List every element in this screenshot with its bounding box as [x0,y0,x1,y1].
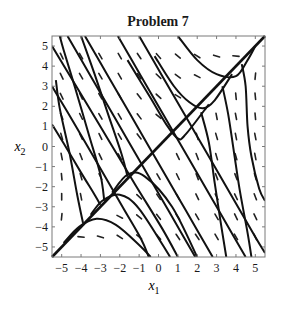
direction-arrow-icon [255,153,256,159]
phase-portrait-figure: Problem 7 −5−4−3−2−1012345 −5−4−3−2−1012… [0,0,284,312]
trajectory-curve [242,64,265,201]
direction-arrow-icon [61,153,62,159]
x-tick-label: −3 [94,261,107,275]
direction-arrow-icon [137,215,142,219]
direction-arrow-icon [195,234,199,239]
direction-arrow-icon [118,134,121,140]
direction-arrow-icon [255,93,256,99]
direction-arrow-icon [60,73,63,79]
direction-arrow-icon [79,73,82,79]
direction-arrow-icon [60,93,63,99]
direction-arrow-icon [214,55,220,57]
direction-arrow-icon [118,53,121,59]
direction-arrow-icon [215,174,217,180]
direction-arrow-icon [236,93,237,99]
x-tick-label: 2 [194,261,200,275]
direction-arrow-icon [117,215,123,218]
x-tick-label: 1 [175,261,181,275]
x-axis-label: x1 [147,278,159,296]
direction-arrow-icon [215,234,218,240]
y-tick-label: 3 [42,79,48,93]
y-tick-label: −4 [35,220,48,234]
y-tick-label: −5 [35,240,48,254]
direction-arrow-icon [137,114,141,119]
direction-arrow-icon [176,174,179,180]
y-tick-label: −1 [35,160,48,174]
direction-arrow-icon [254,194,256,200]
direction-arrow-icon [235,194,238,200]
direction-arrow-icon [60,53,63,59]
y-tick-label: 0 [42,140,48,154]
direction-arrow-icon [235,214,238,220]
direction-arrow-icon [215,214,218,220]
trajectory-curve [64,219,151,257]
direction-arrow-icon [156,94,161,98]
direction-arrow-icon [254,214,257,220]
direction-arrow-icon [78,237,84,238]
direction-arrow-icon [175,54,180,58]
direction-arrow-icon [255,73,256,79]
y-tick-label: 5 [42,39,48,53]
direction-arrow-icon [97,236,103,238]
direction-arrow-icon [216,153,218,159]
direction-arrow-icon [61,214,62,220]
direction-arrow-icon [99,73,102,79]
direction-arrow-icon [196,214,199,220]
direction-arrow-icon [216,113,217,119]
x-tick-label: −1 [133,261,146,275]
direction-arrow-icon [233,56,239,57]
direction-arrow-icon [137,94,141,99]
x-tick-label: 3 [214,261,220,275]
direction-arrow-icon [255,133,256,139]
direction-arrow-icon [175,95,180,98]
direction-arrow-icon [176,154,179,160]
x-tick-label: 5 [252,261,258,275]
direction-arrow-icon [176,234,180,239]
y-tick-label: 2 [42,99,48,113]
y-axis-label: x2 [13,139,25,157]
x-tick-label: 4 [233,261,239,275]
x-tick-label: −2 [113,261,126,275]
direction-arrow-icon [99,114,102,120]
direction-arrow-icon [216,133,218,139]
direction-arrow-icon [156,74,161,78]
direction-arrow-icon [117,235,122,238]
direction-arrow-icon [99,53,102,59]
direction-arrow-icon [235,113,236,119]
direction-arrow-icon [80,154,82,160]
direction-arrow-icon [175,74,180,78]
direction-arrow-icon [99,134,102,140]
chart-title: Problem 7 [127,14,189,29]
direction-arrow-icon [118,73,121,79]
y-tick-label: 4 [42,59,48,73]
y-tick-label: −2 [35,180,48,194]
direction-arrow-icon [255,113,256,119]
direction-arrow-icon [137,53,141,58]
x-axis-ticks: −5−4−3−2−1012345 [55,36,258,275]
x-tick-label: −4 [75,261,88,275]
direction-arrow-icon [118,114,121,120]
direction-arrow-icon [99,154,102,160]
y-tick-label: −3 [35,200,48,214]
direction-arrow-icon [137,134,141,139]
direction-arrow-icon [196,154,198,160]
direction-arrow-icon [157,174,160,180]
direction-arrow-icon [235,133,236,139]
x-tick-label: −5 [55,261,68,275]
x-tick-label: 0 [156,261,162,275]
direction-arrow-icon [80,194,81,200]
direction-arrow-icon [196,194,199,200]
direction-arrow-icon [194,75,200,78]
y-tick-label: 1 [42,119,48,133]
direction-arrow-icon [156,54,160,59]
direction-arrow-icon [61,173,62,179]
